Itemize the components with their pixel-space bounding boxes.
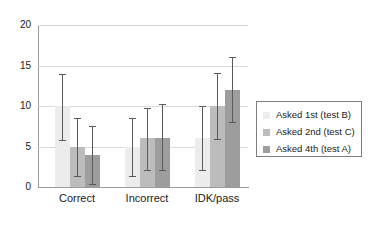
error-bar [92, 126, 93, 185]
error-bar-cap-top [89, 126, 96, 127]
legend-label: Asked 4th (test A) [276, 144, 351, 154]
x-tick-label: Correct [59, 192, 95, 204]
error-bar-cap-top [214, 73, 221, 74]
legend-item[interactable]: Asked 2nd (test C) [263, 124, 355, 140]
y-tick-label: 5 [25, 142, 31, 152]
y-tick-label: 10 [20, 101, 31, 111]
error-bar-cap-bottom [89, 184, 96, 185]
error-bar-cap-top [129, 118, 136, 119]
y-tick-label: 15 [20, 61, 31, 71]
error-bar [202, 106, 203, 171]
x-tick-label: Incorrect [126, 192, 169, 204]
legend-item[interactable]: Asked 1st (test B) [263, 107, 355, 123]
bar-group [38, 25, 108, 187]
error-bar [162, 104, 163, 170]
error-bar-cap-bottom [144, 170, 151, 171]
error-bar [62, 74, 63, 141]
error-bar-cap-bottom [74, 176, 81, 177]
bar-group [178, 25, 248, 187]
error-bar-cap-bottom [59, 140, 66, 141]
error-bar-cap-bottom [159, 170, 166, 171]
error-bar-cap-bottom [129, 176, 136, 177]
chart-legend: Asked 1st (test B)Asked 2nd (test C)Aske… [256, 101, 362, 157]
legend-swatch-icon [263, 129, 270, 136]
error-bar [217, 73, 218, 140]
error-bar-cap-top [159, 104, 166, 105]
error-bar-cap-bottom [229, 122, 236, 123]
error-bar [132, 118, 133, 177]
y-axis-tick-labels: 05101520 [0, 25, 33, 187]
plot-area [38, 25, 248, 187]
y-tick-label: 20 [20, 20, 31, 30]
error-bar [147, 108, 148, 171]
error-bar-cap-top [74, 118, 81, 119]
legend-label: Asked 1st (test B) [276, 110, 351, 120]
x-axis-line [38, 187, 249, 188]
legend-swatch-icon [263, 112, 270, 119]
error-bar-cap-top [144, 108, 151, 109]
error-bar-cap-top [59, 74, 66, 75]
bar-group [108, 25, 178, 187]
error-bar [77, 118, 78, 177]
legend-label: Asked 2nd (test C) [276, 127, 355, 137]
legend-item[interactable]: Asked 4th (test A) [263, 141, 355, 157]
error-bar [232, 57, 233, 123]
legend-swatch-icon [263, 146, 270, 153]
error-bar-cap-bottom [214, 139, 221, 140]
y-tick-label: 0 [25, 182, 31, 192]
error-bar-cap-top [229, 57, 236, 58]
x-tick-label: IDK/pass [195, 192, 240, 204]
chart-figure: 05101520 CorrectIncorrectIDK/pass Asked … [0, 0, 371, 230]
error-bar-cap-top [199, 106, 206, 107]
error-bar-cap-bottom [199, 170, 206, 171]
